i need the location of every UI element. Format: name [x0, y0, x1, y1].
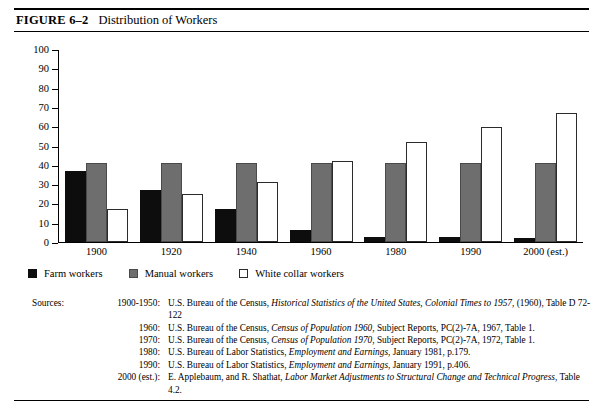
bar-manual-workers [236, 163, 257, 242]
bar-group [433, 50, 508, 242]
source-row: 1960:U.S. Bureau of the Census, Census o… [32, 322, 592, 334]
legend-swatch-manual-icon [129, 269, 138, 278]
bar-white-collar-workers [257, 182, 278, 242]
y-tick-label: 100 [33, 45, 49, 56]
bar-white-collar-workers [556, 113, 577, 242]
bar-farm-workers [364, 237, 385, 242]
y-tick-mark [52, 89, 58, 90]
y-tick-mark [52, 224, 58, 225]
legend-label: White collar workers [255, 268, 344, 279]
source-year-label: 2000 (est.): [80, 371, 168, 383]
bars-layer [59, 50, 583, 242]
y-tick-label: 70 [39, 103, 50, 114]
x-tick-label: 1960 [284, 246, 359, 257]
source-citation-text: E. Applebaum, and R. Shathat, Labor Mark… [168, 371, 592, 396]
source-year-label: 1990: [80, 359, 168, 371]
bar-white-collar-workers [332, 161, 353, 242]
bar-farm-workers [290, 230, 311, 242]
x-axis-line [58, 242, 583, 243]
bar-manual-workers [385, 163, 406, 242]
source-year-label: 1900-1950: [80, 297, 168, 309]
figure-caption: FIGURE 6–2 Distribution of Workers [14, 10, 589, 31]
bar-farm-workers [215, 209, 236, 242]
chart-legend: Farm workersManual workersWhite collar w… [28, 268, 344, 279]
source-citation-text: U.S. Bureau of the Census, Census of Pop… [168, 322, 592, 334]
source-citation-text: U.S. Bureau of Labor Statistics, Employm… [168, 359, 592, 371]
bar-group [134, 50, 209, 242]
y-tick-label: 10 [39, 218, 50, 229]
bar-manual-workers [161, 163, 182, 242]
bar-manual-workers [86, 163, 107, 242]
source-year-label: 1980: [80, 346, 168, 358]
source-year-label: 1960: [80, 322, 168, 334]
y-tick-mark [52, 147, 58, 148]
x-tick-label: 1990 [433, 246, 508, 257]
y-tick-label: 60 [39, 122, 50, 133]
y-tick-mark [52, 185, 58, 186]
source-citation-text: U.S. Bureau of Labor Statistics, Employm… [168, 346, 592, 358]
bar-farm-workers [140, 190, 161, 242]
y-tick-label: 50 [39, 141, 50, 152]
figure-title: Distribution of Workers [99, 13, 218, 28]
sources-heading: Sources: [32, 297, 80, 309]
bar-farm-workers [514, 238, 535, 242]
source-citation-text: U.S. Bureau of the Census, Historical St… [168, 297, 592, 322]
y-tick-mark [52, 127, 58, 128]
y-tick-label: 40 [39, 161, 50, 172]
y-tick-mark [52, 69, 58, 70]
bar-manual-workers [535, 163, 556, 242]
bar-white-collar-workers [406, 142, 427, 242]
bar-chart: 0102030405060708090100 19001920194019601… [14, 44, 589, 259]
y-tick-label: 90 [39, 64, 50, 75]
bar-white-collar-workers [107, 209, 128, 242]
y-tick-label: 20 [39, 199, 50, 210]
bar-white-collar-workers [481, 127, 502, 242]
source-row: 1990:U.S. Bureau of Labor Statistics, Em… [32, 359, 592, 371]
x-tick-label: 1940 [209, 246, 284, 257]
y-tick-mark [52, 108, 58, 109]
bar-group [59, 50, 134, 242]
y-tick-label: 30 [39, 180, 50, 191]
source-row: 1970:U.S. Bureau of the Census, Census o… [32, 334, 592, 346]
figure-number-label: FIGURE 6–2 [16, 13, 89, 28]
source-row: 2000 (est.):E. Applebaum, and R. Shathat… [32, 371, 592, 396]
x-tick-label: 2000 (est.) [508, 246, 583, 257]
bar-group [508, 50, 583, 242]
bar-manual-workers [460, 163, 481, 242]
bar-farm-workers [439, 237, 460, 242]
y-tick-mark [52, 166, 58, 167]
source-citation-text: U.S. Bureau of the Census, Census of Pop… [168, 334, 592, 346]
bar-farm-workers [65, 171, 86, 242]
x-axis-tick-labels: 1900192019401960198019902000 (est.) [59, 246, 583, 257]
x-tick-label: 1920 [134, 246, 209, 257]
y-tick-label: 0 [44, 238, 49, 249]
bar-group [284, 50, 359, 242]
y-tick-mark [52, 204, 58, 205]
bar-group [358, 50, 433, 242]
legend-item-white: White collar workers [239, 268, 344, 279]
footer-rule [14, 400, 589, 401]
legend-label: Manual workers [145, 268, 214, 279]
bar-group [209, 50, 284, 242]
source-year-label: 1970: [80, 334, 168, 346]
y-tick-mark [52, 50, 58, 51]
header-rule-bottom [14, 31, 589, 32]
y-tick-label: 80 [39, 83, 50, 94]
plot-area: 0102030405060708090100 [58, 50, 583, 243]
sources-block: Sources:1900-1950:U.S. Bureau of the Cen… [32, 297, 592, 396]
bar-white-collar-workers [182, 194, 203, 242]
bar-manual-workers [311, 163, 332, 242]
source-row: 1980:U.S. Bureau of Labor Statistics, Em… [32, 346, 592, 358]
x-tick-label: 1900 [59, 246, 134, 257]
legend-label: Farm workers [44, 268, 103, 279]
figure-header: FIGURE 6–2 Distribution of Workers [14, 8, 589, 32]
y-tick-mark [52, 243, 58, 244]
legend-swatch-farm-icon [28, 269, 37, 278]
source-row: Sources:1900-1950:U.S. Bureau of the Cen… [32, 297, 592, 322]
legend-item-farm: Farm workers [28, 268, 103, 279]
x-tick-label: 1980 [358, 246, 433, 257]
legend-item-manual: Manual workers [129, 268, 214, 279]
legend-swatch-white-icon [239, 269, 248, 278]
